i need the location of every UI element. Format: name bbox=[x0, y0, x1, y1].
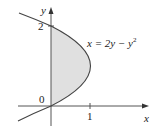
chart-canvas: y x 2 0 1 x = 2y − y2 bbox=[0, 0, 157, 129]
x-axis-label: x bbox=[143, 112, 149, 124]
x-axis-arrow-icon bbox=[142, 104, 149, 109]
curve-equation-exponent: 2 bbox=[133, 36, 137, 44]
y-tick-label-2: 2 bbox=[38, 20, 44, 32]
y-axis-arrow-icon bbox=[49, 7, 54, 14]
curve-equation-label: x = 2y − y2 bbox=[86, 36, 137, 49]
y-axis-label: y bbox=[40, 4, 46, 16]
x-tick-label-1: 1 bbox=[87, 110, 93, 122]
curve-equation-text: x = 2y − y bbox=[86, 37, 133, 49]
y-tick-label-0: 0 bbox=[39, 93, 45, 105]
